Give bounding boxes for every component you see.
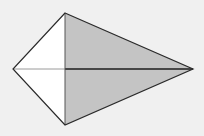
kite-diagram [0, 0, 204, 136]
